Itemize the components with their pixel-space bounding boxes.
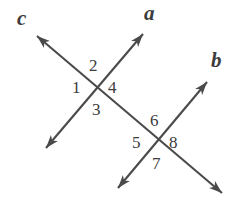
lines-group	[37, 34, 222, 193]
angle-2-label: 2	[89, 57, 98, 74]
line-a	[46, 34, 143, 148]
geometry-figure: cab12345678	[0, 0, 245, 204]
angle-5-label: 5	[132, 134, 141, 151]
angle-6-label: 6	[150, 112, 159, 129]
line-label-a: a	[144, 3, 155, 24]
line-label-c: c	[17, 8, 26, 29]
angle-3-label: 3	[92, 101, 101, 118]
angle-7-label: 7	[152, 155, 161, 172]
line-c	[37, 36, 222, 193]
angle-8-label: 8	[169, 134, 178, 151]
line-label-b: b	[211, 50, 222, 71]
figure-canvas	[0, 0, 245, 204]
angle-4-label: 4	[108, 79, 117, 96]
angle-1-label: 1	[72, 79, 81, 96]
